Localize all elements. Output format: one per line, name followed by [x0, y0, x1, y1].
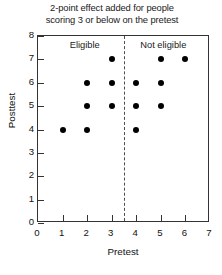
data-point: [60, 127, 66, 133]
x-tick-mark: [161, 215, 162, 221]
y-tick-label: 4: [21, 124, 34, 134]
plot-inner: EligibleNot eligible: [38, 36, 208, 221]
data-point: [109, 103, 115, 109]
y-tick-mark: [38, 83, 44, 84]
y-tick-mark: [38, 176, 44, 177]
x-tick-label: 0: [29, 228, 45, 238]
group-label: Eligible: [70, 40, 100, 50]
x-tick-mark: [63, 215, 64, 221]
y-tick-label: 1: [21, 194, 34, 204]
group-label: Not eligible: [140, 40, 186, 50]
data-point: [158, 103, 164, 109]
y-tick-label: 7: [21, 53, 34, 63]
y-tick-mark: [38, 153, 44, 154]
x-tick-label: 3: [103, 228, 119, 238]
y-tick-mark: [38, 36, 44, 37]
x-tick-label: 6: [176, 228, 192, 238]
data-point: [84, 80, 90, 86]
x-tick-mark: [136, 215, 137, 221]
y-tick-label: 2: [21, 170, 34, 180]
chart-title-line-2: scoring 3 or below on the pretest: [14, 14, 210, 26]
x-axis-title: Pretest: [37, 246, 209, 257]
x-tick-label: 4: [127, 228, 143, 238]
y-tick-label: 6: [21, 77, 34, 87]
y-tick-mark: [38, 59, 44, 60]
y-axis-tick-labels: 012345678: [20, 35, 34, 222]
x-tick-label: 1: [54, 228, 70, 238]
y-tick-label: 3: [21, 147, 34, 157]
data-point: [158, 80, 164, 86]
data-point: [133, 127, 139, 133]
x-axis-tick-labels: 01234567: [37, 228, 209, 240]
y-tick-mark: [38, 130, 44, 131]
x-tick-mark: [112, 215, 113, 221]
data-point: [158, 56, 164, 62]
data-point: [109, 80, 115, 86]
data-point: [133, 103, 139, 109]
chart-title-line-1: 2-point effect added for people: [14, 2, 210, 14]
chart-title: 2-point effect added for people scoring …: [14, 2, 210, 25]
data-point: [133, 80, 139, 86]
data-point: [84, 127, 90, 133]
eligibility-cutoff-line: [124, 36, 125, 221]
x-tick-label: 2: [78, 228, 94, 238]
y-axis-title: Posttest: [6, 76, 17, 146]
y-tick-label: 5: [21, 100, 34, 110]
x-tick-mark: [87, 215, 88, 221]
x-tick-label: 7: [201, 228, 217, 238]
y-tick-label: 8: [21, 30, 34, 40]
scatter-plot-figure: 2-point effect added for people scoring …: [0, 0, 222, 275]
y-tick-mark: [38, 223, 44, 224]
plot-area: EligibleNot eligible: [37, 35, 209, 222]
data-point: [182, 56, 188, 62]
x-tick-label: 5: [152, 228, 168, 238]
x-tick-mark: [185, 215, 186, 221]
data-point: [84, 103, 90, 109]
data-point: [109, 56, 115, 62]
y-tick-mark: [38, 200, 44, 201]
y-tick-label: 0: [21, 217, 34, 227]
y-tick-mark: [38, 106, 44, 107]
